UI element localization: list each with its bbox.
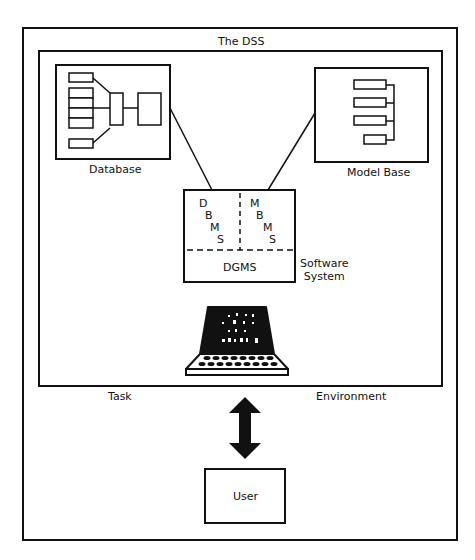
user-box: User	[204, 468, 286, 524]
user-label: User	[233, 491, 258, 502]
